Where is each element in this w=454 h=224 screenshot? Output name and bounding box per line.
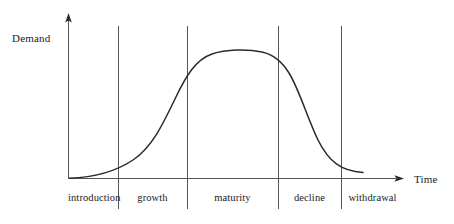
- stage-label-decline: decline: [278, 192, 341, 203]
- y-axis-label: Demand: [12, 32, 50, 44]
- stage-label-growth: growth: [118, 192, 187, 203]
- stage-label-withdrawal: withdrawal: [341, 192, 404, 203]
- stage-label-introduction: introduction: [68, 192, 118, 203]
- demand-curve: [70, 50, 364, 178]
- y-axis: [65, 13, 72, 179]
- stage-label-row: introduction growth maturity decline wit…: [68, 192, 404, 214]
- x-axis-label: Time: [414, 173, 438, 185]
- chart-canvas: [0, 0, 454, 224]
- stage-label-maturity: maturity: [187, 192, 278, 203]
- product-life-cycle-figure: Demand Time introduction growth maturity…: [0, 0, 454, 224]
